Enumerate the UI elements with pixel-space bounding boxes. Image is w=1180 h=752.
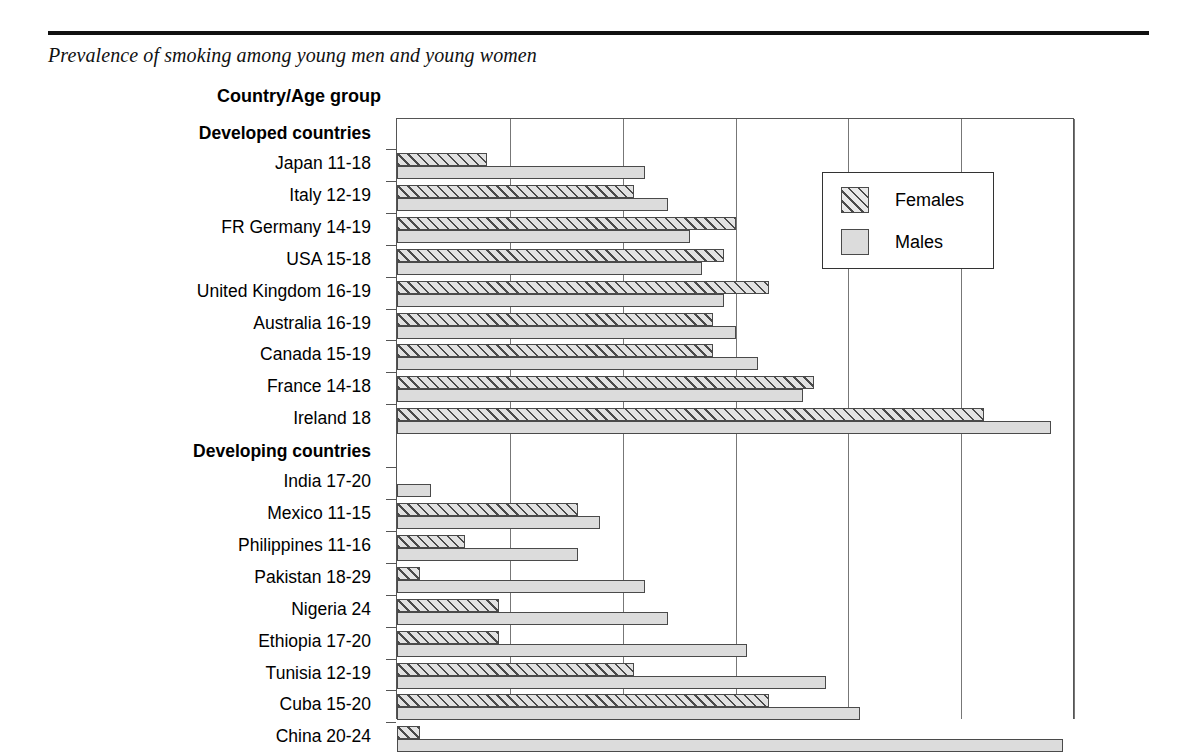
bar-females (397, 694, 769, 707)
bar-males (397, 198, 668, 211)
category-label: Pakistan 18-29 (254, 567, 371, 588)
bar-males (397, 230, 690, 243)
bar-females (397, 217, 736, 230)
bar-males (397, 166, 645, 179)
bar-females (397, 631, 499, 644)
axis-tick (386, 404, 396, 405)
bar-males (397, 357, 758, 370)
axis-tick (386, 499, 396, 500)
axis-tick (386, 213, 396, 214)
bar-females (397, 376, 814, 389)
bar-males (397, 389, 803, 402)
legend-label-females: Females (895, 190, 964, 211)
bar-males (397, 421, 1051, 434)
category-label: Philippines 11-16 (238, 535, 371, 556)
top-rule (48, 31, 1149, 35)
bar-females (397, 567, 420, 580)
category-label: Ethiopia 17-20 (258, 631, 371, 652)
gridline-60 (1074, 119, 1075, 719)
axis-tick (386, 595, 396, 596)
axis-tick (386, 690, 396, 691)
bar-females (397, 249, 724, 262)
chart-legend: Females Males (822, 172, 994, 269)
bar-females (397, 535, 465, 548)
bar-females (397, 663, 634, 676)
legend-item-males: Males (841, 229, 943, 255)
bar-males (397, 580, 645, 593)
axis-tick (386, 722, 396, 723)
category-label: France 14-18 (267, 376, 371, 397)
bar-males (397, 548, 578, 561)
axis-tick (386, 149, 396, 150)
axis-tick (386, 309, 396, 310)
bar-males (397, 484, 431, 497)
section-label: Developing countries (193, 441, 371, 462)
bar-males (397, 707, 860, 720)
bar-females (397, 281, 769, 294)
category-label: India 17-20 (283, 471, 371, 492)
axis-tick (386, 531, 396, 532)
category-label: USA 15-18 (286, 249, 371, 270)
bar-males (397, 262, 702, 275)
bar-females (397, 599, 499, 612)
axis-tick (386, 467, 396, 468)
category-label: Ireland 18 (293, 408, 371, 429)
axis-tick (386, 340, 396, 341)
axis-tick (386, 245, 396, 246)
bar-males (397, 644, 747, 657)
category-label: Australia 16-19 (253, 313, 371, 334)
axis-tick (386, 627, 396, 628)
bar-males (397, 326, 736, 339)
category-label: Italy 12-19 (289, 185, 371, 206)
axis-tick (386, 563, 396, 564)
bar-females (397, 153, 487, 166)
legend-item-females: Females (841, 187, 964, 213)
column-header: Country/Age group (0, 86, 381, 107)
bar-females (397, 503, 578, 516)
category-label: Cuba 15-20 (280, 694, 371, 715)
bar-males (397, 612, 668, 625)
category-label: United Kingdom 16-19 (197, 281, 371, 302)
axis-tick (386, 372, 396, 373)
category-label: Canada 15-19 (260, 344, 371, 365)
bar-males (397, 294, 724, 307)
bar-females (397, 313, 713, 326)
chart-title: Prevalence of smoking among young men an… (48, 44, 537, 67)
section-label: Developed countries (199, 123, 371, 144)
bar-males (397, 739, 1063, 752)
category-label: China 20-24 (276, 726, 371, 747)
category-label: FR Germany 14-19 (221, 217, 371, 238)
category-label: Nigeria 24 (291, 599, 371, 620)
males-swatch-icon (841, 229, 869, 255)
category-label: Tunisia 12-19 (266, 663, 371, 684)
bar-males (397, 516, 600, 529)
bar-females (397, 726, 420, 739)
category-label: Mexico 11-15 (267, 503, 371, 524)
females-swatch-icon (841, 187, 869, 213)
legend-label-males: Males (895, 232, 943, 253)
axis-tick (386, 277, 396, 278)
bar-females (397, 185, 634, 198)
bar-females (397, 408, 984, 421)
axis-tick (386, 659, 396, 660)
category-label: Japan 11-18 (275, 153, 371, 174)
bar-females (397, 344, 713, 357)
axis-tick (386, 181, 396, 182)
bar-males (397, 676, 826, 689)
